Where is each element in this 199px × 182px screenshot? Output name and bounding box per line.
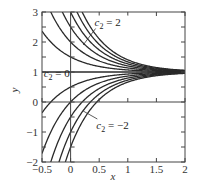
- solution-family-chart: −0.500.511.52 −2−10123 x y c2 = 2c2 = 0c…: [0, 0, 199, 182]
- x-tick-label: 1.5: [150, 163, 164, 175]
- y-tick-label: 0: [33, 96, 39, 108]
- y-tick-label: −1: [26, 126, 38, 138]
- curve-c22: [42, 0, 185, 71]
- curve-c21: [42, 0, 185, 71]
- curve-label: c2 = 0: [44, 67, 71, 82]
- y-tick-label: 3: [33, 6, 39, 18]
- x-tick-label: 1: [125, 163, 131, 175]
- x-axis-label: x: [110, 170, 116, 182]
- y-tick-label: 1: [33, 66, 39, 78]
- x-tick-label: 0.5: [92, 163, 106, 175]
- curve-c21_5: [42, 0, 185, 71]
- x-tick-label: 2: [182, 163, 188, 175]
- x-tick-label: 0: [68, 163, 74, 175]
- curve-c23: [42, 0, 185, 70]
- y-tick-labels: −2−10123: [26, 6, 38, 168]
- curve-c22_5: [42, 0, 185, 71]
- y-tick-label: 2: [33, 36, 39, 48]
- y-tick-label: −2: [26, 156, 38, 168]
- y-axis-label: y: [8, 87, 20, 93]
